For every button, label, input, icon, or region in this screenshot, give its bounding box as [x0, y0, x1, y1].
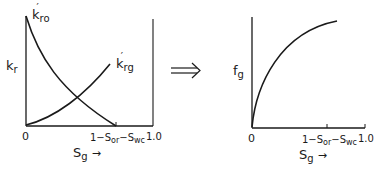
kro-label: kro′ — [32, 2, 50, 24]
left-panel: kro′ krg′ kr 0 1−Sor−Swc 1.0 Sg→ — [6, 2, 162, 162]
right-x-end: 1.0 — [358, 133, 374, 144]
krg-label: krg′ — [116, 51, 134, 73]
relperm-fractional-flow-diagram: kro′ krg′ kr 0 1−Sor−Swc 1.0 Sg→ fg 0 — [0, 0, 379, 172]
left-x-end: 1.0 — [146, 131, 162, 142]
left-y-label: kr — [6, 58, 19, 75]
right-x-label: Sg→ — [299, 147, 327, 164]
left-x-label: Sg→ — [73, 145, 101, 162]
fg-curve — [252, 21, 337, 127]
implies-arrow-icon — [171, 63, 200, 78]
right-panel: fg 0 1−Sor−Swc 1.0 Sg→ — [233, 17, 374, 164]
kro-curve — [26, 16, 116, 126]
right-x-tick-label: 1−Sor−Swc — [302, 134, 357, 147]
left-x-origin: 0 — [22, 130, 29, 143]
right-x-origin: 0 — [248, 132, 255, 145]
left-x-tick-label: 1−Sor−Swc — [90, 132, 145, 145]
right-y-label: fg — [233, 63, 244, 80]
krg-curve — [26, 64, 110, 125]
